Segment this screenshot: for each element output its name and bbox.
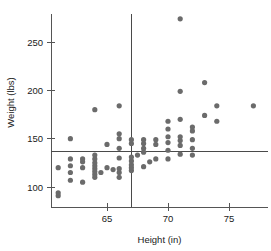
data-point [68,178,73,183]
data-point [190,124,195,129]
data-point [104,165,109,170]
data-point [117,175,122,180]
data-point [178,134,183,139]
x-tick-label: 75 [224,213,235,224]
data-point [117,155,122,160]
data-point [104,142,109,147]
data-point [135,153,140,158]
data-point [68,163,73,168]
y-tick-label: 100 [27,182,43,193]
data-point [117,136,122,141]
y-tick-label: 150 [27,133,43,144]
data-point [56,190,61,195]
data-point [202,113,207,118]
data-point [214,119,219,124]
data-point [111,167,116,172]
scatter-plot-figure: 100150200250657075Height (in)Weight (lbs… [0,0,271,251]
data-point [190,137,195,142]
y-tick-label: 250 [27,37,43,48]
data-point [80,165,85,170]
data-point [178,117,183,122]
data-point [202,80,207,85]
data-point [68,156,73,161]
data-point [178,16,183,21]
data-point [92,107,97,112]
x-tick-label: 70 [163,213,174,224]
y-tick-label: 200 [27,85,43,96]
data-point [178,89,183,94]
data-point [165,140,170,145]
data-point [153,142,158,147]
data-point [92,153,97,158]
data-point [68,136,73,141]
data-point [68,170,73,175]
data-point [153,156,158,161]
data-point [117,146,122,151]
data-point [178,143,183,148]
data-point [165,119,170,124]
data-point [117,103,122,108]
data-point [141,164,146,169]
data-point [129,137,134,142]
data-point [80,156,85,161]
data-point [98,170,103,175]
data-point [165,148,170,153]
data-point [165,156,170,161]
chart-canvas: 100150200250657075Height (in)Weight (lbs… [0,0,271,251]
data-point [251,103,256,108]
data-point [190,153,195,158]
data-point [165,134,170,139]
data-point [141,137,146,142]
data-point [56,165,61,170]
data-point [117,166,122,171]
x-axis-title: Height (in) [138,234,182,245]
data-point [117,131,122,136]
data-point [153,137,158,142]
data-point [165,126,170,131]
y-axis-title: Weight (lbs) [5,77,16,128]
data-point [141,146,146,151]
data-point [178,152,183,157]
data-point [80,180,85,185]
data-point [147,159,152,164]
data-point [190,146,195,151]
data-point [129,154,134,159]
data-point [214,103,219,108]
x-tick-label: 65 [102,213,113,224]
